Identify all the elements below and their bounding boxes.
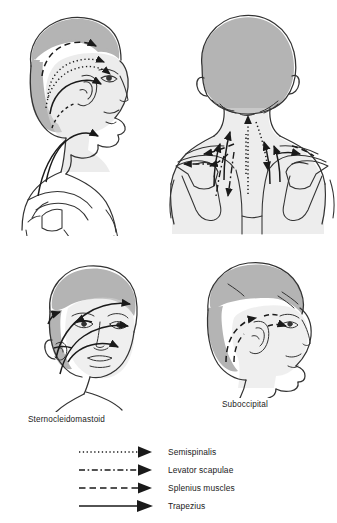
legend: Semispinalis Levator scapulae Splenius m…: [78, 443, 328, 515]
face-shading: [65, 297, 135, 378]
head-hair-shading: [202, 17, 294, 114]
trapezius-arrow-icon: [54, 347, 72, 349]
caption-suboccipital: Suboccipital: [222, 400, 268, 409]
dashed-arrow-icon: [78, 479, 162, 497]
shoulder-clavicle-scapula: [26, 191, 121, 236]
figure-posterior-head-neck-upper-back: [168, 4, 336, 236]
legend-label-levator-scapulae: Levator scapulae: [168, 465, 233, 475]
dashdot-arrow-icon: [78, 461, 162, 479]
legend-item-trapezius: Trapezius: [78, 497, 328, 515]
legend-label-semispinalis: Semispinalis: [168, 447, 216, 457]
legend-item-splenius-muscles: Splenius muscles: [78, 479, 328, 497]
caption-sternocleidomastoid: Sternocleidomastoid: [28, 415, 105, 424]
solid-arrow-icon: [78, 497, 162, 515]
face-shading: [232, 305, 308, 388]
dotted-arrow-icon: [78, 443, 162, 461]
face-neck-shading: [46, 53, 130, 172]
legend-label-trapezius: Trapezius: [168, 501, 205, 511]
legend-item-semispinalis: Semispinalis: [78, 443, 328, 461]
figure-lateral-head-suboccipital: [192, 258, 330, 398]
legend-item-levator-scapulae: Levator scapulae: [78, 461, 328, 479]
figure-lateral-head-neck-trapezius-splenius: [2, 4, 172, 236]
figure-anterior-oblique-face-sternocleidomastoid: [36, 262, 176, 412]
legend-label-splenius-muscles: Splenius muscles: [168, 483, 235, 493]
